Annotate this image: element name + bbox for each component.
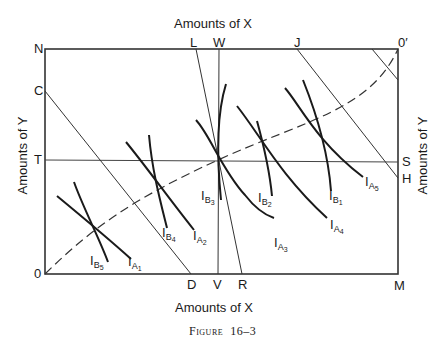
point-C: C bbox=[34, 84, 43, 97]
point-W: W bbox=[213, 36, 225, 49]
label-IB2: IB2 bbox=[258, 190, 272, 208]
indifference-curve-IB2 bbox=[257, 121, 272, 196]
point-T: T bbox=[34, 153, 42, 166]
point-J: J bbox=[294, 36, 301, 49]
point-D: D bbox=[187, 278, 196, 291]
label-IA3: IA3 bbox=[274, 235, 288, 253]
label-IB5: IB5 bbox=[90, 253, 104, 271]
line-JH-a bbox=[372, 49, 398, 80]
indifference-curve-IB3 bbox=[218, 84, 226, 200]
edgeworth-box-figure: Amounts of X Amounts of X Amounts of Y A… bbox=[0, 0, 444, 342]
point-N: N bbox=[34, 42, 43, 55]
label-IB3: IB3 bbox=[201, 188, 215, 206]
right-axis-title: Amounts of Y bbox=[415, 111, 430, 201]
indifference-curve-IA2 bbox=[126, 142, 194, 230]
label-IB1: IB1 bbox=[329, 188, 343, 206]
indifference-curve-IB1 bbox=[303, 80, 331, 191]
label-IB4: IB4 bbox=[162, 225, 176, 243]
point-O: 0 bbox=[34, 267, 41, 280]
point-O-prime: 0′ bbox=[398, 36, 408, 49]
bottom-axis-title: Amounts of X bbox=[175, 300, 253, 315]
point-L: L bbox=[190, 36, 197, 49]
top-axis-title: Amounts of X bbox=[174, 16, 252, 31]
line-JH bbox=[297, 49, 398, 178]
point-V: V bbox=[213, 278, 222, 291]
label-IA2: IA2 bbox=[193, 228, 207, 246]
label-IA1: IA1 bbox=[128, 254, 142, 272]
figure-caption: Figure 16–3 bbox=[189, 324, 256, 339]
edgeworth-box-diagram bbox=[0, 0, 444, 342]
point-R: R bbox=[238, 278, 247, 291]
point-H: H bbox=[402, 172, 411, 185]
indifference-curve-IB5 bbox=[74, 182, 108, 262]
label-IA5: IA5 bbox=[365, 174, 379, 192]
point-S: S bbox=[402, 155, 411, 168]
point-M: M bbox=[394, 279, 405, 292]
label-IA4: IA4 bbox=[330, 217, 344, 235]
left-axis-title: Amounts of Y bbox=[15, 111, 30, 201]
indifference-curve-IB4 bbox=[149, 135, 167, 228]
